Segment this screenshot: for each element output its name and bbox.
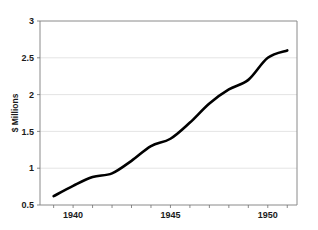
- x-tick-label: 1945: [160, 210, 180, 220]
- x-tick-label: 1950: [258, 210, 278, 220]
- y-axis-title: $ Millions: [10, 93, 20, 132]
- chart-background: [0, 0, 318, 230]
- y-tick-label: 1.5: [21, 127, 34, 137]
- y-tick-label: 2.5: [21, 53, 34, 63]
- line-chart: 0.511.522.53 194019451950 $ Millions: [0, 0, 318, 230]
- chart-container: 0.511.522.53 194019451950 $ Millions: [0, 0, 318, 230]
- y-tick-label: 0.5: [21, 200, 34, 210]
- x-tick-label: 1940: [63, 210, 83, 220]
- y-axis-title-text: $ Millions: [10, 93, 20, 132]
- y-tick-label: 1: [29, 163, 34, 173]
- y-tick-label: 2: [29, 90, 34, 100]
- y-tick-label: 3: [29, 16, 34, 26]
